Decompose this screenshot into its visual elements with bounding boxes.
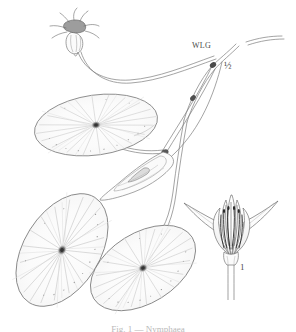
illustration-canvas — [0, 0, 296, 332]
botanical-plate: WLG ½ 1 Fig. 1 — Nymphaea — [0, 0, 296, 332]
plate-caption: Fig. 1 — Nymphaea — [0, 324, 296, 332]
artist-monogram: WLG — [192, 42, 211, 50]
flower-detail — [184, 195, 278, 300]
figure-number-label: 1 — [240, 263, 245, 272]
sheathing-leaf — [100, 152, 174, 200]
flower-bud-top — [50, 8, 99, 56]
scale-label: ½ — [224, 61, 232, 71]
lily-pad-upper-left — [30, 87, 161, 164]
